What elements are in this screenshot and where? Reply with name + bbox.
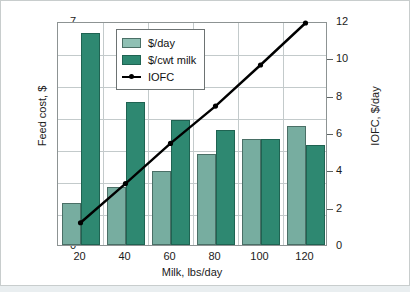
x-axis-tick: 100 xyxy=(240,250,280,262)
y-axis-tick-right: 0 xyxy=(336,239,360,251)
x-axis-tick: 20 xyxy=(60,250,100,262)
iofc-point-60 xyxy=(168,141,173,146)
chart-legend: $/day $/cwt milk IOFC xyxy=(116,29,205,90)
iofc-point-20 xyxy=(78,220,83,225)
legend-item-cwt: $/cwt milk xyxy=(122,51,196,68)
x-axis-tick: 60 xyxy=(150,250,190,262)
chart-figure: Feed cost, $ IOFC, $/day Milk, lbs/day 7… xyxy=(0,0,410,292)
y-axis-label-left: Feed cost, $ xyxy=(36,56,48,176)
x-axis-tick: 40 xyxy=(105,250,145,262)
y-axis-tick-right: 2 xyxy=(336,202,360,214)
figure-bottom-strip xyxy=(0,286,410,292)
legend-label-iofc: IOFC xyxy=(148,71,174,83)
legend-item-iofc: IOFC xyxy=(122,68,196,85)
y-axis-label-right: IOFC, $/day xyxy=(369,56,381,176)
y-axis-tick-right: 6 xyxy=(336,127,360,139)
x-axis-label: Milk, lbs/day xyxy=(57,266,327,278)
legend-item-day: $/day xyxy=(122,34,196,51)
y-axis-tick-right: 4 xyxy=(336,164,360,176)
iofc-point-100 xyxy=(258,62,263,67)
y-axis-tick-right: 12 xyxy=(336,15,360,27)
iofc-point-80 xyxy=(213,103,218,108)
legend-swatch-day-icon xyxy=(122,38,141,48)
legend-label-cwt: $/cwt milk xyxy=(148,54,196,66)
y-axis-tick-right: 8 xyxy=(336,90,360,102)
iofc-point-120 xyxy=(303,20,308,25)
x-axis-tick: 120 xyxy=(285,250,325,262)
legend-label-day: $/day xyxy=(148,37,175,49)
legend-line-marker-icon xyxy=(122,72,141,82)
iofc-point-40 xyxy=(123,181,128,186)
y-axis-tick-right: 10 xyxy=(336,52,360,64)
legend-swatch-cwt-icon xyxy=(122,55,141,65)
x-axis-tick: 80 xyxy=(195,250,235,262)
